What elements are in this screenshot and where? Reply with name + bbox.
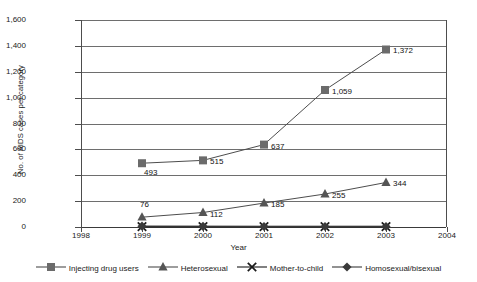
x-tick-mark bbox=[142, 227, 143, 232]
square-marker bbox=[47, 263, 55, 271]
x-tick-label: 1998 bbox=[51, 231, 111, 240]
x-tick-label: 2002 bbox=[295, 231, 355, 240]
legend-item[interactable]: Injecting drug users bbox=[36, 261, 139, 275]
y-tick-label: 1,400 bbox=[0, 42, 26, 50]
y-tick-mark bbox=[75, 20, 81, 21]
y-tick-mark bbox=[75, 124, 81, 125]
x-tick-mark bbox=[325, 227, 326, 232]
legend-item[interactable]: Heterosexual bbox=[148, 261, 228, 275]
x-tick-label: 2001 bbox=[234, 231, 294, 240]
legend-label: Heterosexual bbox=[181, 264, 228, 273]
diamond-legend-icon bbox=[332, 261, 362, 275]
y-tick-mark bbox=[75, 201, 81, 202]
data-point-label: 637 bbox=[271, 143, 284, 151]
y-tick-label: 800 bbox=[0, 120, 26, 128]
x-legend-icon bbox=[237, 261, 267, 275]
gridline bbox=[82, 201, 446, 202]
y-tick-label: 400 bbox=[0, 171, 26, 179]
x-tick-mark bbox=[81, 227, 82, 232]
gridline bbox=[82, 175, 446, 176]
chart-legend: Injecting drug usersHeterosexualMother-t… bbox=[0, 261, 477, 275]
gridline bbox=[82, 149, 446, 150]
data-point-label: 344 bbox=[393, 180, 406, 188]
triangle-legend-icon bbox=[148, 261, 178, 275]
data-point-label: 185 bbox=[271, 201, 284, 209]
data-point-label: 493 bbox=[144, 169, 157, 177]
y-tick-label: 1,600 bbox=[0, 16, 26, 24]
data-point-label: 255 bbox=[332, 192, 345, 200]
data-point-label: 112 bbox=[210, 211, 223, 219]
x-axis-title-text: Year bbox=[230, 243, 246, 252]
data-point-label: 76 bbox=[140, 201, 149, 209]
gridline bbox=[82, 46, 446, 47]
square-legend-icon bbox=[36, 261, 66, 275]
y-tick-label: 600 bbox=[0, 145, 26, 153]
triangle-marker bbox=[158, 262, 167, 270]
y-tick-label: 200 bbox=[0, 197, 26, 205]
data-point-label: 515 bbox=[210, 158, 223, 166]
gridline bbox=[82, 124, 446, 125]
gridline bbox=[82, 72, 446, 73]
diamond-marker bbox=[343, 262, 352, 271]
legend-label: Mother-to-child bbox=[270, 264, 323, 273]
y-tick-mark bbox=[75, 149, 81, 150]
aids-cases-line-chart: No. of AIDS cases per category 020040060… bbox=[0, 0, 477, 282]
y-tick-mark bbox=[75, 72, 81, 73]
x-tick-label: 2003 bbox=[356, 231, 416, 240]
y-tick-mark bbox=[75, 46, 81, 47]
x-tick-mark bbox=[447, 227, 448, 232]
y-tick-label: 0 bbox=[0, 223, 26, 231]
data-point-label: 1,372 bbox=[393, 47, 413, 55]
x-tick-mark bbox=[264, 227, 265, 232]
legend-item[interactable]: Homosexual/bisexual bbox=[332, 261, 441, 275]
gridline bbox=[82, 98, 446, 99]
y-tick-mark bbox=[75, 175, 81, 176]
x-tick-mark bbox=[386, 227, 387, 232]
x-tick-label: 2000 bbox=[173, 231, 233, 240]
x-tick-mark bbox=[203, 227, 204, 232]
legend-item[interactable]: Mother-to-child bbox=[237, 261, 323, 275]
legend-label: Homosexual/bisexual bbox=[365, 264, 441, 273]
data-point-label: 1,059 bbox=[332, 88, 352, 96]
gridline bbox=[82, 20, 446, 21]
legend-label: Injecting drug users bbox=[69, 264, 139, 273]
x-tick-label: 2004 bbox=[417, 231, 477, 240]
x-tick-label: 1999 bbox=[112, 231, 172, 240]
y-tick-mark bbox=[75, 98, 81, 99]
y-tick-label: 1,000 bbox=[0, 94, 26, 102]
y-tick-label: 1,200 bbox=[0, 68, 26, 76]
x-axis-title: Year bbox=[0, 243, 477, 252]
